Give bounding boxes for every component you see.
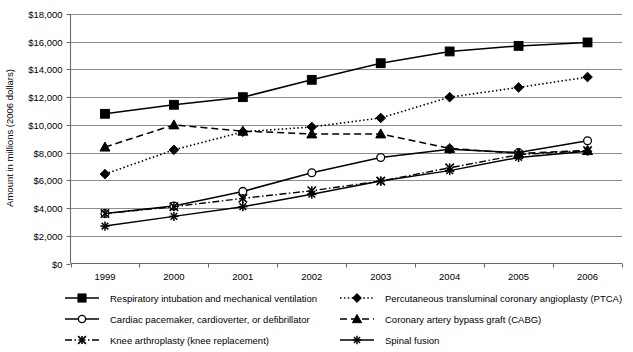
legend-label: Cardiac pacemaker, cardioverter, or defi… [110, 314, 310, 325]
legend-label: Knee arthroplasty (knee replacement) [110, 335, 269, 346]
data-point-marker [169, 212, 178, 221]
data-point-marker [101, 109, 110, 118]
y-axis-title: Amount in millions (2006 dollars) [4, 69, 15, 207]
data-point-marker [376, 176, 385, 185]
data-point-marker [308, 169, 316, 177]
data-point-marker [445, 166, 454, 175]
y-tick-label: $4,000 [33, 203, 62, 214]
data-point-marker [307, 75, 316, 84]
data-point-marker [238, 202, 247, 211]
y-tick-label: $14,000 [28, 64, 62, 75]
y-tick-label: $12,000 [28, 92, 62, 103]
data-point-marker [78, 294, 86, 302]
data-point-marker [583, 147, 592, 156]
line-chart: $0$2,000$4,000$6,000$8,000$10,000$12,000… [0, 0, 633, 352]
legend-label: Coronary artery bypass graft (CABG) [385, 314, 541, 325]
data-point-marker [377, 154, 385, 162]
data-point-marker [78, 315, 85, 322]
x-tick-label: 2003 [370, 271, 391, 282]
legend-label: Spinal fusion [385, 335, 439, 346]
x-tick-label: 2005 [508, 271, 529, 282]
x-tick-label: 2006 [577, 271, 598, 282]
data-point-marker [514, 153, 523, 162]
data-point-marker [584, 137, 592, 145]
y-tick-label: $8,000 [33, 148, 62, 159]
chart-container: $0$2,000$4,000$6,000$8,000$10,000$12,000… [0, 0, 633, 352]
y-tick-label: $10,000 [28, 120, 62, 131]
data-point-marker [100, 221, 109, 230]
data-point-marker [307, 190, 316, 199]
data-point-marker [353, 336, 361, 344]
y-tick-label: $18,000 [28, 9, 62, 20]
data-point-marker [583, 38, 592, 47]
y-tick-label: $16,000 [28, 37, 62, 48]
x-tick-label: 2000 [163, 271, 184, 282]
legend-label: Respiratory intubation and mechanical ve… [110, 293, 317, 304]
data-point-marker [238, 93, 247, 102]
x-tick-label: 2001 [232, 271, 253, 282]
y-tick-label: $2,000 [33, 231, 62, 242]
legend-label: Percutaneous transluminal coronary angio… [385, 293, 622, 304]
y-tick-label: $0 [52, 259, 63, 270]
data-point-marker [514, 41, 523, 50]
data-point-marker [445, 47, 454, 56]
x-tick-label: 2004 [439, 271, 460, 282]
data-point-marker [170, 100, 179, 109]
x-tick-label: 1999 [94, 271, 115, 282]
y-tick-label: $6,000 [33, 175, 62, 186]
x-tick-label: 2002 [301, 271, 322, 282]
data-point-marker [376, 59, 385, 68]
